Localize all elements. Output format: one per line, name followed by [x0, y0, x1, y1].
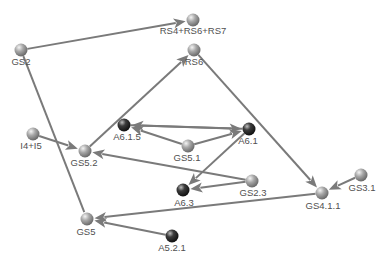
node-label: RS4+RS6+RS7: [160, 25, 227, 36]
node-label: A6.1.5: [113, 131, 140, 142]
light-sphere-node-icon[interactable]: [188, 44, 201, 57]
dark-sphere-node-icon[interactable]: [166, 230, 179, 243]
node-label: GS4.1.1: [306, 200, 341, 211]
node-I4-I5[interactable]: I4+I5: [20, 128, 41, 152]
light-sphere-node-icon[interactable]: [355, 169, 368, 182]
node-label: I4+I5: [20, 140, 41, 151]
edge-GS2.3-to-A6.3: [190, 182, 245, 193]
dark-sphere-node-icon[interactable]: [177, 184, 190, 197]
dark-sphere-node-icon[interactable]: [118, 119, 131, 132]
node-GS4.1.1[interactable]: GS4.1.1: [306, 187, 341, 212]
node-A6.1[interactable]: A6.1: [238, 123, 258, 147]
graph-canvas: RS4+RS6+RS7GS2RS6I4+I5GS5.2A6.1.5A6.1GS5…: [0, 0, 387, 268]
node-GS5[interactable]: GS5: [76, 213, 95, 238]
light-sphere-node-icon[interactable]: [316, 187, 329, 200]
edge-line: [104, 222, 165, 234]
light-sphere-node-icon[interactable]: [81, 213, 94, 226]
edge-RS6-to-GS4.1.1: [198, 55, 317, 188]
light-sphere-node-icon[interactable]: [27, 128, 40, 141]
light-sphere-node-icon[interactable]: [246, 175, 259, 188]
node-RS6[interactable]: RS6: [185, 44, 203, 68]
node-label: GS5: [76, 226, 95, 237]
edge-line: [39, 136, 68, 146]
node-GS2.3[interactable]: GS2.3: [240, 175, 267, 199]
node-GS3.1[interactable]: GS3.1: [349, 169, 376, 194]
edge-line: [27, 23, 175, 49]
node-label: A6.1: [238, 135, 258, 146]
node-label: RS6: [185, 56, 203, 67]
light-sphere-node-icon[interactable]: [79, 145, 92, 158]
light-sphere-node-icon[interactable]: [182, 140, 195, 153]
edge-line: [141, 126, 242, 129]
edge-line: [194, 134, 232, 145]
dark-sphere-node-icon[interactable]: [243, 123, 256, 136]
node-label: A5.2.1: [158, 242, 185, 253]
edge-line: [141, 130, 182, 144]
node-label: GS5.1: [174, 152, 201, 163]
node-label: GS2.3: [240, 187, 267, 198]
node-GS2[interactable]: GS2: [11, 44, 30, 68]
node-label: A6.3: [174, 197, 194, 208]
node-layer: RS4+RS6+RS7GS2RS6I4+I5GS5.2A6.1.5A6.1GS5…: [11, 14, 375, 254]
light-sphere-node-icon[interactable]: [15, 44, 28, 57]
node-label: GS3.1: [349, 182, 376, 193]
edge-line: [104, 194, 315, 217]
node-label: GS2: [11, 56, 30, 67]
node-RS4-RS6-RS7[interactable]: RS4+RS6+RS7: [160, 14, 227, 37]
node-label: GS5.2: [71, 157, 98, 168]
edge-A6.1-to-A6.1.5: [131, 121, 242, 131]
edge-GS4.1.1-to-GS5: [94, 194, 315, 222]
node-A5.2.1[interactable]: A5.2.1: [158, 230, 185, 254]
node-A6.3[interactable]: A6.3: [174, 184, 194, 209]
